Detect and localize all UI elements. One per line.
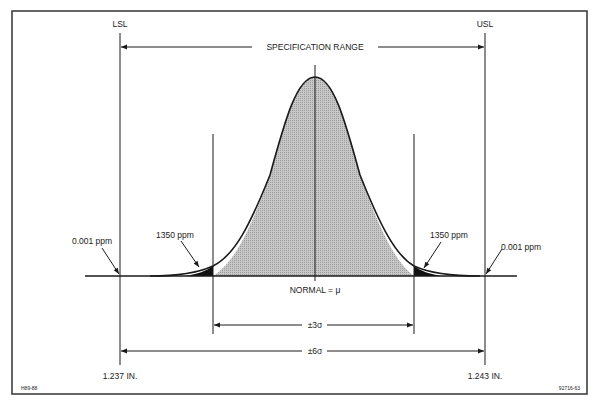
lsl-label: LSL (112, 19, 127, 29)
usl-value-label: 1.243 IN. (468, 371, 503, 381)
right-3sigma-ppm-label: 1350 ppm (430, 230, 468, 240)
left-6sigma-pointer (102, 248, 119, 274)
right-6sigma-ppm-label: 0.001 ppm (501, 242, 541, 252)
six-sigma-label: ±6σ (308, 346, 323, 356)
normal-mean-label: NORMAL = μ (290, 285, 341, 295)
right-3sigma-pointer (424, 242, 441, 268)
left-6sigma-ppm-label: 0.001 ppm (72, 236, 112, 246)
figure-code-right: 92716-63 (559, 385, 580, 391)
three-sigma-label: ±3σ (308, 320, 323, 330)
six-sigma-diagram: SPECIFICATION RANGE ±3σ ±6σ LSL USL NORM… (0, 0, 595, 406)
distribution-fill (213, 77, 414, 276)
left-3sigma-pointer (181, 241, 199, 267)
left-3sigma-ppm-label: 1350 ppm (156, 230, 194, 240)
lsl-value-label: 1.237 IN. (103, 371, 138, 381)
right-6sigma-pointer (486, 249, 502, 274)
usl-label: USL (477, 19, 494, 29)
figure-code-left: H89-88 (21, 385, 38, 391)
spec-range-label: SPECIFICATION RANGE (266, 42, 363, 52)
